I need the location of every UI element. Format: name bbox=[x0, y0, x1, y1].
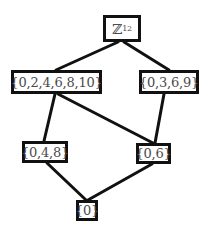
edge-0369-06 bbox=[155, 94, 164, 143]
node-06-subgroup: {0,6} bbox=[136, 143, 171, 164]
edge-z12-0369 bbox=[124, 42, 169, 70]
node-label: {0,6} bbox=[135, 146, 171, 161]
node-0369-subgroup: {0,3,6,9} bbox=[139, 70, 199, 94]
edge-even-06 bbox=[58, 94, 153, 143]
node-z12: ℤ12 bbox=[103, 15, 141, 42]
node-subscript: 12 bbox=[122, 24, 132, 33]
node-label: {0,4,8} bbox=[21, 145, 69, 160]
node-label: {0} bbox=[75, 203, 99, 218]
edge-06-0 bbox=[88, 164, 152, 200]
edge-z12-even bbox=[56, 42, 118, 70]
node-048-subgroup: {0,4,8} bbox=[22, 141, 68, 163]
node-label: {0,2,4,6,8,10} bbox=[10, 75, 102, 90]
node-label: {0,3,6,9} bbox=[139, 75, 199, 90]
node-label: ℤ bbox=[112, 21, 122, 37]
node-trivial-subgroup: {0} bbox=[76, 200, 98, 221]
edge-even-048 bbox=[44, 94, 55, 141]
node-even-subgroup: {0,2,4,6,8,10} bbox=[11, 70, 102, 94]
edge-048-0 bbox=[47, 163, 86, 200]
